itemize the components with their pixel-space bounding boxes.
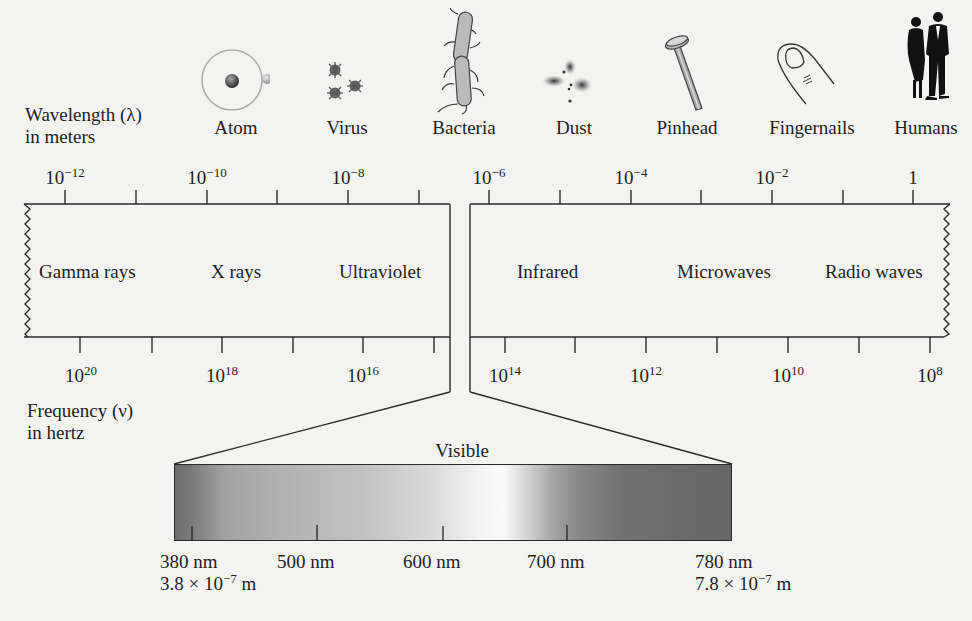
wavelength-tick-label: 1 [908, 167, 918, 191]
size-label-pinhead: Pinhead [656, 117, 717, 139]
frequency-tick-label: 1010 [772, 365, 804, 389]
wavelength-tick-label: 10−12 [45, 167, 84, 191]
atom-icon [200, 40, 270, 115]
visible-title: Visible [435, 440, 489, 462]
pinhead-icon [660, 34, 710, 114]
wavelength-tick-label: 10−4 [615, 167, 648, 191]
region-gamma-rays: Gamma rays [39, 261, 136, 283]
visible-tick-380: 380 nm 3.8 × 10−7 m [160, 551, 256, 597]
region-infrared: Infrared [517, 261, 578, 283]
visible-tick-700: 700 nm [527, 551, 585, 573]
wavelength-axis-label: Wavelength (λ) [25, 104, 142, 126]
region-microwaves: Microwaves [677, 261, 771, 283]
size-label-dust: Dust [556, 117, 592, 139]
frequency-tick-label: 1014 [489, 365, 521, 389]
size-label-virus: Virus [326, 117, 367, 139]
bacteria-icon [436, 8, 496, 116]
wavelength-axis-title: Wavelength (λ) in meters [25, 104, 142, 148]
size-label-humans: Humans [894, 117, 957, 139]
size-label-bacteria: Bacteria [432, 117, 495, 139]
fingernail-icon [776, 38, 838, 106]
region-ultraviolet: Ultraviolet [339, 261, 421, 283]
frequency-axis-label: Frequency (ν) [27, 400, 133, 422]
frequency-axis-unit: in hertz [27, 422, 133, 444]
size-label-atom: Atom [214, 117, 257, 139]
humans-icon [903, 10, 953, 108]
wavelength-tick-label: 10−8 [332, 167, 365, 191]
region-x-rays: X rays [211, 261, 261, 283]
frequency-tick-label: 1020 [65, 365, 97, 389]
wavelength-tick-label: 10−2 [756, 167, 789, 191]
virus-icon [325, 60, 370, 105]
wavelength-axis-unit: in meters [25, 126, 142, 148]
dust-icon [540, 55, 600, 110]
frequency-tick-label: 1012 [630, 365, 662, 389]
frequency-axis-title: Frequency (ν) in hertz [27, 400, 133, 444]
frequency-tick-label: 1016 [347, 365, 379, 389]
wavelength-tick-label: 10−6 [473, 167, 506, 191]
visible-tick-780: 780 nm 7.8 × 10−7 m [695, 551, 791, 597]
size-label-fingernails: Fingernails [769, 117, 855, 139]
region-radio-waves: Radio waves [825, 261, 923, 283]
frequency-tick-label: 1018 [206, 365, 238, 389]
visible-spectrum-bar [174, 464, 732, 541]
wavelength-tick-label: 10−10 [187, 167, 226, 191]
visible-tick-600: 600 nm [403, 551, 461, 573]
frequency-tick-label: 108 [917, 365, 943, 389]
visible-tick-500: 500 nm [277, 551, 335, 573]
